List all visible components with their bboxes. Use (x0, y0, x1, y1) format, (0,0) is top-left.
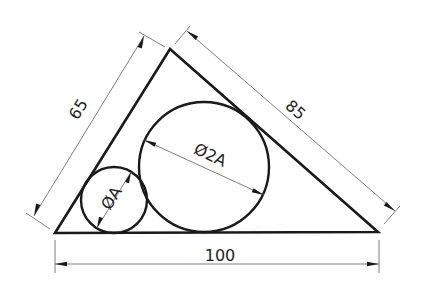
arrowhead (252, 188, 264, 195)
technical-drawing: 65 85 100 ØA (0, 0, 421, 288)
arrowhead (367, 262, 379, 266)
drawing-canvas: 65 85 100 ØA (0, 0, 421, 288)
arrowhead (34, 204, 41, 216)
dimension-label-base: 100 (205, 246, 236, 265)
diameter-small-circle: ØA (97, 172, 131, 228)
large-circle (139, 102, 269, 232)
arrowhead (125, 172, 131, 183)
arrowhead (144, 140, 156, 147)
dimension-left-side: 65 (26, 32, 165, 229)
dimension-label-right: 85 (282, 96, 310, 124)
extension-line (175, 26, 190, 44)
diameter-label-large: Ø2A (191, 139, 230, 170)
diameter-large-circle: Ø2A (144, 139, 264, 195)
arrowhead (97, 217, 103, 228)
dimension-label-left: 65 (65, 95, 92, 122)
dimension-line (34, 36, 144, 216)
dimension-right-side: 85 (175, 26, 400, 224)
extension-line (26, 213, 50, 229)
dimension-base: 100 (55, 240, 379, 273)
dimension-line (187, 31, 395, 211)
arrowhead (55, 262, 67, 266)
arrowhead (384, 202, 395, 211)
arrowhead (138, 36, 145, 48)
arrowhead (187, 31, 198, 40)
